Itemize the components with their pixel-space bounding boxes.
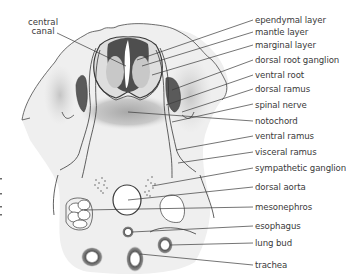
label-ependymal-layer: ependymal layer <box>255 15 326 25</box>
label-lung-bud: lung bud <box>255 238 292 248</box>
central-canal-line2: canal <box>28 27 58 36</box>
label-ventral-root: ventral root <box>255 70 304 80</box>
label-marginal-layer: marginal layer <box>255 40 316 50</box>
label-notochord: notochord <box>255 116 298 126</box>
label-mantle-layer: mantle layer <box>255 27 308 37</box>
label-spinal-nerve: spinal nerve <box>255 100 307 110</box>
left-edge-marks <box>0 178 2 216</box>
label-trachea: trachea <box>255 260 287 270</box>
label-esophagus: esophagus <box>255 221 301 231</box>
label-ventral-ramus: ventral ramus <box>255 131 314 141</box>
label-sympathetic-ganglion: sympathetic ganglion <box>255 163 346 173</box>
label-mesonephros: mesonephros <box>255 202 312 212</box>
label-dorsal-root-ganglion: dorsal root ganglion <box>255 55 339 65</box>
neural-tube <box>94 37 162 100</box>
label-visceral-ramus: visceral ramus <box>255 147 317 157</box>
dorsal-aorta-shape <box>113 185 141 215</box>
label-central-canal: central canal <box>28 18 58 36</box>
lung-bud-left-shape <box>81 247 103 267</box>
label-dorsal-ramus: dorsal ramus <box>255 84 310 94</box>
trachea-shape <box>126 246 144 272</box>
label-dorsal-aorta: dorsal aorta <box>255 182 306 192</box>
